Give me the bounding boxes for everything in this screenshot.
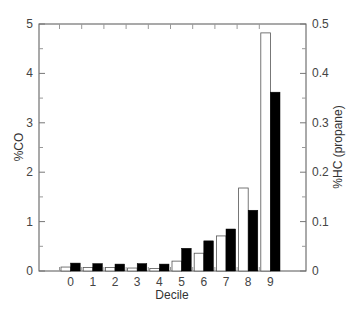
- left-tick-label: 1: [26, 215, 33, 229]
- hc-bar: [137, 264, 147, 271]
- x-tick-label: 4: [156, 275, 163, 289]
- co-bar: [216, 236, 226, 271]
- co-bar: [61, 267, 71, 271]
- right-y-axis-label: %HC (propane): [331, 105, 345, 188]
- right-tick-label: 0.4: [312, 66, 329, 80]
- x-tick-label: 2: [112, 275, 119, 289]
- x-tick-label: 7: [223, 275, 230, 289]
- left-y-axis-label: %CO: [12, 133, 26, 162]
- co-bar: [128, 268, 138, 271]
- hc-bar: [248, 210, 258, 271]
- left-y-axis: 012345: [26, 17, 45, 278]
- hc-bar: [115, 264, 125, 271]
- co-bar: [83, 268, 93, 271]
- right-tick-label: 0.2: [312, 165, 329, 179]
- x-tick-label: 5: [178, 275, 185, 289]
- x-tick-label: 9: [267, 275, 274, 289]
- x-tick-label: 3: [134, 275, 141, 289]
- x-tick-label: 8: [245, 275, 252, 289]
- right-y-axis: 00.10.20.30.40.5: [300, 17, 329, 278]
- right-tick-label: 0.1: [312, 215, 329, 229]
- left-tick-label: 3: [26, 116, 33, 130]
- hc-bar: [71, 263, 81, 271]
- x-tick-label: 1: [89, 275, 96, 289]
- co-bar: [261, 33, 271, 271]
- hc-bar: [204, 241, 214, 271]
- x-axis-label: Decile: [155, 288, 189, 302]
- hc-bar: [226, 229, 236, 271]
- co-bar: [194, 253, 204, 271]
- hc-bar: [270, 92, 280, 271]
- x-tick-label: 6: [200, 275, 207, 289]
- right-tick-label: 0.5: [312, 17, 329, 31]
- right-tick-label: 0: [312, 264, 319, 278]
- hc-bar: [93, 264, 103, 271]
- right-tick-label: 0.3: [312, 116, 329, 130]
- hc-bar: [159, 264, 169, 271]
- bar-series: [61, 33, 280, 271]
- hc-bar: [182, 248, 192, 271]
- dual-axis-bar-chart: 012345 00.10.20.30.40.5 0123456789 Decil…: [0, 0, 357, 310]
- co-bar: [239, 188, 249, 271]
- co-bar: [172, 261, 182, 271]
- x-tick-label: 0: [67, 275, 74, 289]
- co-bar: [105, 268, 115, 271]
- co-bar: [150, 269, 160, 271]
- left-tick-label: 5: [26, 17, 33, 31]
- left-tick-label: 2: [26, 165, 33, 179]
- left-tick-label: 4: [26, 66, 33, 80]
- left-tick-label: 0: [26, 264, 33, 278]
